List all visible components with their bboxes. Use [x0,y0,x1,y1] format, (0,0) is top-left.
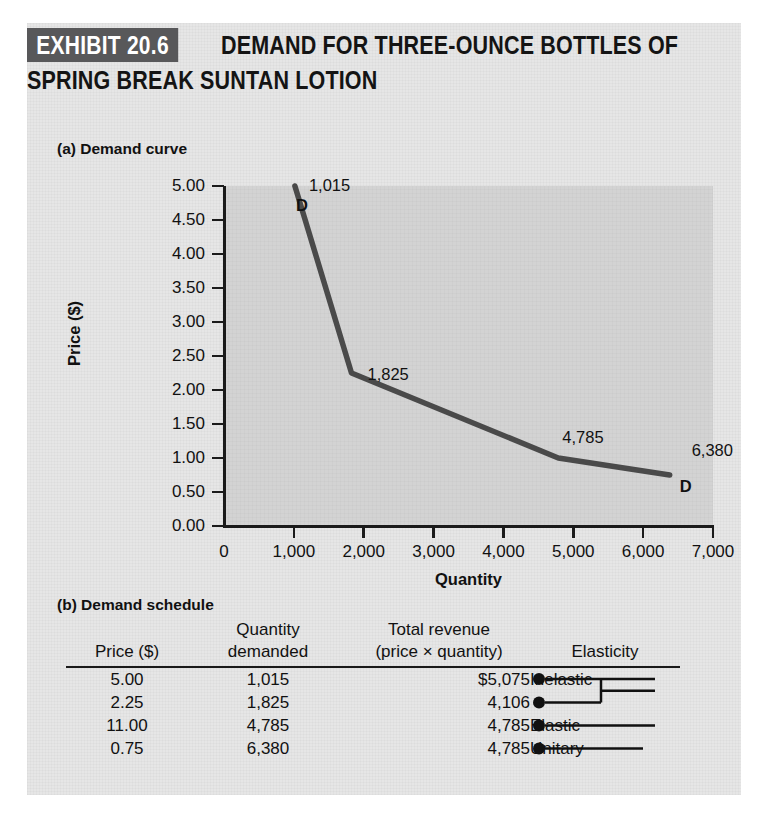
cell-elasticity: Inelastic [530,667,680,691]
x-tick-label: 5,000 [552,542,595,562]
x-tick-mark [642,527,645,538]
header-quantity-line1: Quantity [188,620,348,642]
header-revenue: (price × quantity) [348,642,530,667]
y-tick-label: 5.00 [57,176,205,196]
table-row: 0.756,3804,785Unitary [66,737,680,760]
y-tick-label: 2.00 [57,380,205,400]
x-tick-label: 0 [219,542,228,562]
y-tick-label: 4.00 [57,244,205,264]
cell-price: 11.00 [66,714,188,737]
data-point-label: 6,380 [692,441,733,460]
table-body: 5.001,015$5,075Inelastic2.251,8254,10611… [66,667,680,760]
exhibit-title-line-1: DEMAND FOR THREE-OUNCE BOTTLES OF [221,30,678,60]
y-tick-mark [212,525,224,528]
cell-quantity: 4,785 [188,714,348,737]
exhibit-header: EXHIBIT 20.6 DEMAND FOR THREE-OUNCE BOTT… [27,28,747,95]
exhibit-title-line-2: SPRING BREAK SUNTAN LOTION [27,65,646,95]
y-tick-mark [212,355,224,358]
y-axis-title: Price ($) [65,301,84,366]
y-tick-mark [212,253,224,256]
exhibit-header-line-1: EXHIBIT 20.6 DEMAND FOR THREE-OUNCE BOTT… [27,28,747,62]
exhibit-page: EXHIBIT 20.6 DEMAND FOR THREE-OUNCE BOTT… [0,0,779,821]
cell-quantity: 6,380 [188,737,348,760]
cell-price: 5.00 [66,667,188,691]
demand-curve-chart: 0.000.501.001.502.002.503.003.504.004.50… [57,168,727,583]
cell-elasticity [530,691,680,714]
cell-revenue: $5,075 [348,667,530,691]
cell-revenue: 4,785 [348,737,530,760]
data-point-label: 4,785 [562,428,603,447]
header-elasticity: Elasticity [530,642,680,667]
x-tick-mark [712,527,715,538]
x-tick-mark [572,527,575,538]
curve-label-d-end: D [680,477,692,496]
exhibit-number-badge: EXHIBIT 20.6 [27,28,178,62]
demand-schedule-table: Quantity Total revenue Price ($) demande… [66,620,680,760]
cell-revenue: 4,785 [348,714,530,737]
table-row: 2.251,8254,106 [66,691,680,714]
x-tick-mark [293,527,296,538]
cell-price: 2.25 [66,691,188,714]
plot-texture [224,186,713,526]
table-row: 11.004,7854,785Elastic [66,714,680,737]
x-tick-label: 1,000 [273,542,316,562]
y-tick-mark [212,423,224,426]
cell-price: 0.75 [66,737,188,760]
x-tick-label: 6,000 [622,542,665,562]
header-revenue-line1: Total revenue [348,620,530,642]
y-tick-mark [212,219,224,222]
y-tick-mark [212,457,224,460]
y-tick-label: 0.50 [57,482,205,502]
x-tick-mark [362,527,365,538]
x-tick-label: 3,000 [412,542,455,562]
header-quantity: demanded [188,642,348,667]
x-tick-mark [432,527,435,538]
demand-schedule-table-wrap: Quantity Total revenue Price ($) demande… [57,620,717,760]
y-tick-label: 1.50 [57,414,205,434]
cell-quantity: 1,825 [188,691,348,714]
plot-area [224,186,713,526]
cell-revenue: 4,106 [348,691,530,714]
cell-quantity: 1,015 [188,667,348,691]
y-tick-label: 4.50 [57,210,205,230]
y-tick-mark [212,491,224,494]
section-b-caption: (b) Demand schedule [57,596,214,614]
x-tick-label: 4,000 [482,542,525,562]
y-tick-mark [212,287,224,290]
header-price-line1 [66,620,188,642]
y-tick-label: 3.50 [57,278,205,298]
cell-elasticity: Elastic [530,714,680,737]
x-tick-mark [502,527,505,538]
curve-label-d-top: D [296,196,308,215]
data-point-label: 1,825 [367,365,408,384]
y-tick-mark [212,321,224,324]
x-axis-title: Quantity [224,570,713,589]
data-point-label: 1,015 [309,176,350,195]
section-a-caption: (a) Demand curve [57,140,187,158]
header-price: Price ($) [66,642,188,667]
x-tick-label: 7,000 [692,542,735,562]
x-axis-line [223,525,714,528]
header-elasticity-line1 [530,620,680,642]
y-tick-mark [212,185,224,188]
y-tick-mark [212,389,224,392]
table-row: 5.001,015$5,075Inelastic [66,667,680,691]
y-tick-label: 1.00 [57,448,205,468]
table-head: Quantity Total revenue Price ($) demande… [66,620,680,667]
table-header-row-bottom: Price ($) demanded (price × quantity) El… [66,642,680,667]
table-header-row-top: Quantity Total revenue [66,620,680,642]
x-tick-label: 2,000 [342,542,385,562]
cell-elasticity: Unitary [530,737,680,760]
y-tick-label: 0.00 [57,516,205,536]
